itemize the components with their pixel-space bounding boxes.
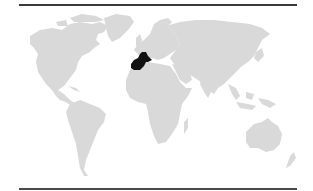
southeast-asia	[228, 84, 276, 110]
bottom-rule	[19, 188, 297, 190]
world-map	[0, 0, 313, 191]
madagascar	[184, 118, 188, 134]
south-america	[66, 100, 106, 176]
australia	[246, 118, 282, 152]
greenland	[104, 14, 134, 42]
new-zealand	[286, 152, 296, 168]
north-america	[30, 22, 108, 106]
